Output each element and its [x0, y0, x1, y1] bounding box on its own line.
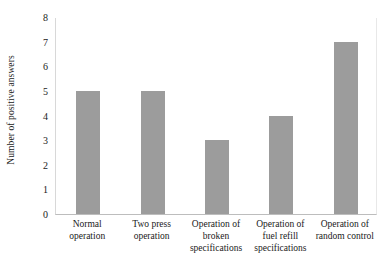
bar-chart: Number of positive answers 8 7 6 5 4 3 2…	[0, 0, 390, 274]
bar	[269, 116, 293, 215]
y-tick-label: 0	[28, 210, 48, 220]
y-tick-label: 6	[28, 62, 48, 72]
bars-layer	[56, 18, 376, 214]
x-tick-label: Two press operation	[121, 218, 181, 242]
y-axis-title: Number of positive answers	[4, 10, 18, 210]
plot-area	[55, 18, 377, 215]
x-tick-label: Operation of broken specifications	[186, 218, 246, 254]
y-tick-label: 1	[28, 185, 48, 195]
y-tick-label: 7	[28, 38, 48, 48]
bar	[76, 91, 100, 214]
y-tick-label: 4	[28, 112, 48, 122]
x-tick-label: Operation of random control	[315, 218, 375, 242]
y-tick-label: 8	[28, 13, 48, 23]
bar	[334, 42, 358, 214]
y-tick-label: 5	[28, 87, 48, 97]
x-tick-label: Normal operation	[57, 218, 117, 242]
bar	[141, 91, 165, 214]
y-tick-label: 3	[28, 136, 48, 146]
y-axis-tick-labels: 8 7 6 5 4 3 2 1 0	[28, 0, 48, 274]
x-tick-label: Operation of fuel refill specifications	[250, 218, 310, 254]
y-tick-label: 2	[28, 161, 48, 171]
bar	[205, 140, 229, 214]
x-axis-category-labels: Normal operation Two press operation Ope…	[55, 218, 377, 270]
